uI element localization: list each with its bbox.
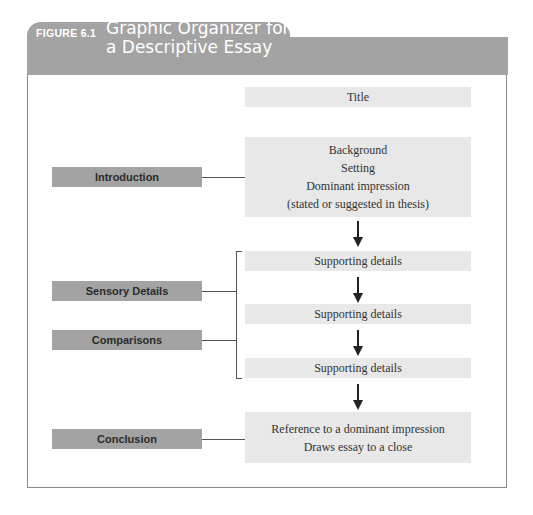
arrow-down-icon — [353, 277, 363, 303]
intro-line: (stated or suggested in thesis) — [245, 195, 471, 213]
comparisons-label: Comparisons — [52, 330, 202, 350]
intro-content-box: Background Setting Dominant impression (… — [245, 137, 471, 217]
supporting-box: Supporting details — [245, 304, 471, 324]
conclusion-line: Draws essay to a close — [245, 438, 471, 456]
arrow-down-icon — [353, 384, 363, 410]
bracket-top-tick — [236, 251, 242, 252]
introduction-label: Introduction — [52, 167, 202, 187]
figure-title-line1: Graphic Organizer for — [106, 19, 290, 38]
conclusion-line: Reference to a dominant impression — [245, 420, 471, 438]
figure-label: FIGURE 6.1 — [36, 26, 96, 40]
sensory-details-label: Sensory Details — [52, 281, 202, 301]
intro-line: Setting — [245, 159, 471, 177]
conclusion-label: Conclusion — [52, 429, 202, 449]
bracket-bottom-tick — [236, 378, 242, 379]
intro-line: Background — [245, 141, 471, 159]
comparisons-connector — [202, 340, 236, 341]
bracket-vertical — [236, 251, 237, 379]
figure-title: Graphic Organizer for a Descriptive Essa… — [106, 19, 290, 57]
supporting-text: Supporting details — [245, 252, 471, 270]
supporting-box: Supporting details — [245, 251, 471, 271]
supporting-box: Supporting details — [245, 358, 471, 378]
sensory-connector — [202, 291, 236, 292]
figure-title-line2: a Descriptive Essay — [106, 38, 290, 57]
arrow-down-icon — [353, 221, 363, 247]
intro-line: Dominant impression — [245, 177, 471, 195]
arrow-down-icon — [353, 330, 363, 356]
supporting-text: Supporting details — [245, 359, 471, 377]
introduction-connector — [202, 177, 245, 178]
supporting-text: Supporting details — [245, 305, 471, 323]
conclusion-connector — [202, 439, 245, 440]
title-box: Title — [245, 87, 471, 107]
conclusion-content-box: Reference to a dominant impression Draws… — [245, 412, 471, 463]
title-box-text: Title — [245, 88, 471, 106]
